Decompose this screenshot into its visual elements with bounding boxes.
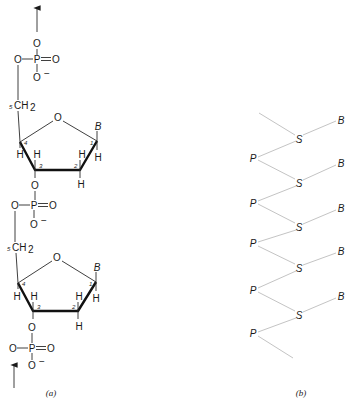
charge-label: − <box>41 215 47 226</box>
panel-b-schematic: S S S S S P P P P P B B B B B (b) <box>250 113 345 398</box>
sugar-label: S <box>296 222 303 233</box>
hydrogen-label: H <box>92 293 99 304</box>
base-label: B <box>338 115 345 126</box>
phosphorus-label: P <box>29 343 36 354</box>
carbon-number: 3 <box>39 163 43 169</box>
carbon-number: 4 <box>24 140 28 146</box>
hydrogen-label: H <box>30 291 37 302</box>
oxygen-label: O <box>52 54 60 65</box>
hydrogen-label: H <box>33 149 40 160</box>
hydrogen-label: H <box>75 291 82 302</box>
subscript: 2 <box>30 102 36 113</box>
phosphate-label: P <box>250 238 257 249</box>
ch2-label: CH <box>14 100 28 111</box>
oxygen-label: O <box>11 200 19 211</box>
phosphate-label: P <box>250 328 257 339</box>
oxygen-label: O <box>30 219 38 230</box>
oxygen-label: O <box>28 322 36 333</box>
carbon-number: 1 <box>89 281 92 287</box>
oxygen-label: O <box>28 360 36 371</box>
hydrogen-label: H <box>77 179 84 190</box>
charge-label: − <box>44 68 50 79</box>
carbon-number: 2 <box>71 304 76 310</box>
base-label: B <box>338 246 345 257</box>
oxygen-label: O <box>47 343 55 354</box>
oxygen-label: O <box>9 343 17 354</box>
base-label: B <box>338 203 345 214</box>
deoxyribose-1: 5 CH 2 O B 4 1 3 2 H H H H <box>9 100 102 191</box>
phosphorus-label: P <box>31 200 38 211</box>
carbon-number: 4 <box>22 281 26 287</box>
phosphate-group-top: O O P O O − <box>14 38 60 83</box>
deoxyribose-2: 5 CH 2 O B 4 1 3 2 H H H H H O <box>7 242 101 333</box>
carbon-number: 1 <box>90 140 93 146</box>
sugar-label: S <box>296 263 303 274</box>
hydrogen-label: H <box>75 321 82 332</box>
carbon-number: 5 <box>9 104 13 110</box>
panel-a-structural-formula: O O P O O − 5 CH 2 O B <box>7 8 102 398</box>
ch2-label: CH <box>12 242 26 253</box>
base-label: B <box>95 121 102 132</box>
base-label: B <box>338 291 345 302</box>
oxygen-label: O <box>49 200 57 211</box>
phosphate-group-middle: O P O O − <box>11 191 57 230</box>
oxygen-label: O <box>33 72 41 83</box>
phosphate-label: P <box>250 153 257 164</box>
hydrogen-label: H <box>78 149 85 160</box>
oxygen-label: O <box>31 180 39 191</box>
ring-oxygen-label: O <box>54 112 62 123</box>
carbon-number: 3 <box>37 304 41 310</box>
base-label: B <box>94 262 101 273</box>
phosphate-label: P <box>250 198 257 209</box>
panel-b-caption: (b) <box>296 388 307 398</box>
phosphate-group-bottom: O P O O − <box>9 333 55 371</box>
phosphorus-label: P <box>34 54 41 65</box>
carbon-number: 2 <box>73 163 78 169</box>
carbon-number: 5 <box>7 246 11 252</box>
sugar-label: S <box>296 310 303 321</box>
panel-a-caption: (a) <box>46 388 57 398</box>
phosphate-label: P <box>250 285 257 296</box>
hydrogen-label: H <box>13 291 20 302</box>
charge-label: − <box>39 356 45 367</box>
sugar-label: S <box>296 134 303 145</box>
subscript: 2 <box>28 244 34 255</box>
ring-oxygen-label: O <box>53 252 61 263</box>
hydrogen-label: H <box>94 152 101 163</box>
dna-backbone-diagram: O O P O O − 5 CH 2 O B <box>0 0 346 408</box>
oxygen-label: O <box>14 54 22 65</box>
base-label: B <box>338 158 345 169</box>
sugar-label: S <box>296 178 303 189</box>
hydrogen-label: H <box>16 149 23 160</box>
oxygen-label: O <box>33 38 41 49</box>
